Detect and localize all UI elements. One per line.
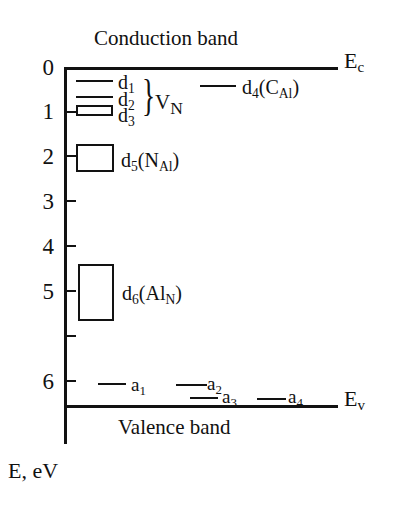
- vn-group-brace: }: [142, 74, 155, 118]
- level-label-a2-sub: 2: [215, 382, 221, 397]
- ec-label-sub: c: [357, 59, 364, 75]
- level-label-d6-text: d: [122, 282, 132, 304]
- level-label-d5-paren-open: (N: [138, 149, 159, 171]
- axis-tick-label-6: 6: [14, 370, 54, 393]
- level-label-d3-sub: 3: [128, 114, 135, 129]
- band-diagram-figure: Conduction band Ec 0 1 2 3 4 5 6 d1 d2 d…: [0, 0, 396, 505]
- level-label-d5-text: d: [121, 149, 131, 171]
- level-label-d6-paren-close: ): [175, 282, 182, 304]
- level-label-d5-sub: 5: [131, 159, 138, 174]
- level-line-a3: [190, 397, 218, 399]
- level-label-d4-sub: 4: [252, 86, 259, 101]
- level-label-d6-paren-open: (Al: [139, 282, 166, 304]
- vn-group-label-text: V: [155, 90, 170, 114]
- ec-label: Ec: [344, 50, 364, 78]
- level-box-d6: [78, 264, 114, 321]
- axis-tick-7: [67, 380, 76, 382]
- level-line-d1: [76, 80, 113, 82]
- level-label-d5-paren-sub: Al: [159, 159, 173, 174]
- vn-group-label: VN: [155, 92, 183, 119]
- axis-tick-label-4: 4: [14, 235, 54, 258]
- level-line-a1: [98, 383, 126, 385]
- level-label-d6-paren-sub: N: [165, 292, 175, 307]
- level-label-d6: d6(AlN): [122, 283, 182, 310]
- energy-axis: [64, 67, 67, 444]
- axis-tick-2: [67, 155, 76, 157]
- level-label-d6-sub: 6: [132, 292, 139, 307]
- axis-tick-3: [67, 200, 76, 202]
- axis-tick-label-2: 2: [14, 145, 54, 168]
- vn-group-label-sub: N: [170, 98, 183, 118]
- level-line-d4: [200, 85, 236, 87]
- level-label-a3: a3: [222, 387, 237, 413]
- level-label-d5-paren-close: ): [173, 149, 180, 171]
- axis-tick-label-1: 1: [14, 100, 54, 123]
- level-label-d4-paren-open: (C: [259, 76, 279, 98]
- level-box-d5: [76, 144, 114, 172]
- level-label-d4-paren-sub: Al: [279, 86, 293, 101]
- level-box-d3: [76, 105, 113, 116]
- axis-tick-label-3: 3: [14, 190, 54, 213]
- valence-band-edge-line: [64, 405, 338, 408]
- level-label-d4: d4(CAl): [242, 77, 299, 104]
- axis-title: E, eV: [8, 460, 58, 482]
- level-label-a4: a4: [288, 387, 303, 413]
- axis-tick-label-0: 0: [14, 56, 54, 79]
- ec-label-text: E: [344, 48, 357, 73]
- axis-tick-1: [67, 111, 76, 113]
- level-label-d3-text: d: [118, 104, 128, 126]
- ev-label-text: E: [344, 386, 357, 411]
- level-label-a2: a2: [207, 374, 222, 400]
- axis-tick-4: [67, 245, 76, 247]
- level-label-d4-text: d: [242, 76, 252, 98]
- level-label-d4-paren-close: ): [292, 76, 299, 98]
- conduction-band-label: Conduction band: [94, 28, 238, 49]
- ev-label-sub: v: [357, 397, 364, 413]
- valence-band-label: Valence band: [118, 417, 231, 438]
- axis-tick-6: [67, 335, 76, 337]
- level-label-d3: d3: [118, 105, 135, 132]
- level-line-d2: [76, 96, 113, 98]
- level-line-a2: [176, 384, 207, 386]
- conduction-band-edge-line: [64, 67, 338, 70]
- level-line-a4: [257, 398, 286, 400]
- axis-tick-5: [67, 290, 76, 292]
- level-label-d5: d5(NAl): [121, 150, 179, 177]
- level-label-a1-sub: 1: [139, 383, 145, 398]
- ev-label: Ev: [344, 388, 365, 416]
- axis-tick-label-5: 5: [14, 280, 54, 303]
- level-label-a1: a1: [131, 375, 146, 401]
